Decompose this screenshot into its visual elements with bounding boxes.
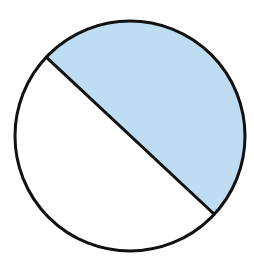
fraction-circle-diagram <box>0 0 254 259</box>
diagram-canvas: 1/2 <box>0 0 254 259</box>
